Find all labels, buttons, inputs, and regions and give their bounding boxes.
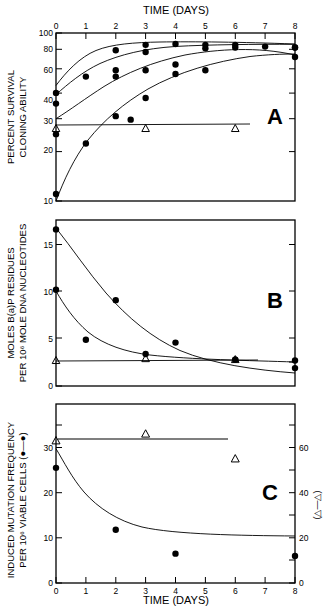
panel-a-ylabel-line1: PERCENT SURVIVAL bbox=[5, 70, 16, 164]
x-tick-label: 6 bbox=[233, 21, 238, 31]
x-tick-label: 8 bbox=[293, 586, 298, 596]
filled-circle-marker bbox=[232, 44, 238, 50]
x-tick-label: 8 bbox=[293, 21, 298, 31]
y-tick-label-right: 60 bbox=[299, 443, 309, 453]
filled-circle-marker bbox=[53, 465, 59, 471]
filled-circle-marker bbox=[53, 226, 59, 232]
filled-circle-marker bbox=[113, 73, 119, 79]
filled-circle-marker bbox=[262, 43, 268, 49]
filled-circle-marker bbox=[142, 95, 148, 101]
figure-root: TIME (DAYS) 012345678 10080604030201 bbox=[0, 0, 330, 613]
filled-circle-marker bbox=[53, 90, 59, 96]
filled-circle-marker bbox=[172, 550, 178, 556]
x-tick-label: 4 bbox=[173, 21, 178, 31]
bottom-axis-title: TIME (DAYS) bbox=[143, 594, 209, 606]
panel-c-ylabel-line1: INDUCED MUTATION FREQUENCY bbox=[5, 421, 16, 578]
filled-circle-marker bbox=[142, 42, 148, 48]
filled-circle-marker bbox=[127, 116, 133, 122]
filled-circle-marker bbox=[113, 67, 119, 73]
x-tick-label: 5 bbox=[203, 21, 208, 31]
panel-b-ylabel-line1: MOLES B(a)P RESIDUES bbox=[5, 247, 16, 358]
x-tick-label: 3 bbox=[143, 21, 148, 31]
filled-circle-marker bbox=[53, 287, 59, 293]
filled-circle-marker bbox=[292, 357, 298, 363]
y-tick-label: 0 bbox=[48, 381, 53, 391]
panel-b-label: B bbox=[267, 288, 283, 313]
y-tick-label: 0 bbox=[48, 578, 53, 588]
filled-circle-marker bbox=[292, 365, 298, 371]
y-tick-label: 5 bbox=[48, 334, 53, 344]
y-tick-label: 30 bbox=[44, 116, 54, 126]
filled-circle-marker bbox=[172, 339, 178, 345]
filled-circle-marker bbox=[113, 527, 119, 533]
filled-circle-marker bbox=[172, 71, 178, 77]
filled-circle-marker bbox=[292, 44, 298, 50]
filled-circle-marker bbox=[83, 337, 89, 343]
y-tick-label: 20 bbox=[44, 488, 54, 498]
filled-circle-marker bbox=[83, 140, 89, 146]
y-tick-label: 100 bbox=[39, 28, 53, 38]
x-tick-label: 6 bbox=[233, 586, 238, 596]
filled-circle-marker bbox=[113, 47, 119, 53]
y-tick-label-right: 20 bbox=[299, 533, 309, 543]
panel-c-ylabel-line2: PER 10⁶ VIABLE CELLS (●—●) bbox=[17, 432, 28, 567]
y-tick-label: 10 bbox=[44, 196, 54, 206]
filled-circle-marker bbox=[292, 553, 298, 559]
x-tick-label: 7 bbox=[263, 586, 268, 596]
x-tick-label: 1 bbox=[84, 586, 89, 596]
y-tick-label: 40 bbox=[44, 95, 54, 105]
y-tick-label-right: 0 bbox=[299, 578, 304, 588]
panel-b-ylabel-line2: PER 10⁶ MOLE DNA NUCLEOTIDES bbox=[17, 224, 28, 383]
y-tick-label: 60 bbox=[44, 65, 54, 75]
filled-circle-marker bbox=[202, 67, 208, 73]
y-tick-label: 80 bbox=[44, 44, 54, 54]
x-tick-label: 0 bbox=[54, 21, 59, 31]
y-tick-label: 15 bbox=[44, 240, 54, 250]
filled-circle-marker bbox=[113, 113, 119, 119]
y-tick-label: 10 bbox=[44, 287, 54, 297]
x-tick-label: 1 bbox=[84, 21, 89, 31]
y-tick-label-right: 40 bbox=[299, 488, 309, 498]
filled-circle-marker bbox=[202, 45, 208, 51]
y-tick-label: 20 bbox=[44, 145, 54, 155]
filled-circle-marker bbox=[142, 67, 148, 73]
panel-a-ylabel-line2: CLONING ABILITY bbox=[17, 76, 28, 157]
panel-c-ylabel-right: (△—△) bbox=[312, 491, 322, 520]
filled-circle-marker bbox=[172, 41, 178, 47]
panel-a-label: A bbox=[267, 104, 283, 129]
y-tick-label: 10 bbox=[44, 533, 54, 543]
filled-circle-marker bbox=[83, 73, 89, 79]
x-tick-label: 0 bbox=[54, 586, 59, 596]
top-axis-title: TIME (DAYS) bbox=[143, 4, 209, 16]
filled-circle-marker bbox=[292, 54, 298, 60]
filled-circle-marker bbox=[53, 100, 59, 106]
filled-circle-marker bbox=[113, 297, 119, 303]
x-tick-label: 2 bbox=[113, 21, 118, 31]
filled-circle-marker bbox=[172, 61, 178, 67]
x-tick-label: 2 bbox=[113, 586, 118, 596]
filled-circle-marker bbox=[53, 191, 59, 197]
panel-c-label: C bbox=[262, 480, 278, 505]
filled-circle-marker bbox=[142, 49, 148, 55]
x-tick-label: 7 bbox=[263, 21, 268, 31]
